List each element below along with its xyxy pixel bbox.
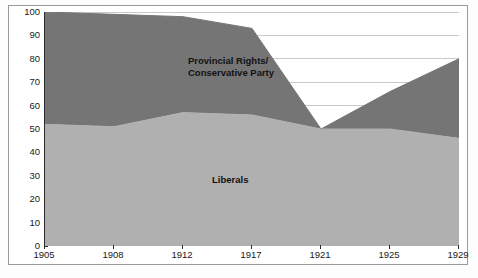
series-label-liberals: Liberals xyxy=(212,174,248,186)
area-chart-svg xyxy=(45,12,459,246)
x-axis-tick-mark xyxy=(458,245,459,249)
x-axis-tick-mark xyxy=(44,245,45,249)
y-axis-tick-labels: 0102030405060708090100 xyxy=(8,12,40,246)
x-axis-tick-label: 1908 xyxy=(102,249,123,260)
y-axis-tick-label: 40 xyxy=(10,148,40,158)
figure-caption xyxy=(10,268,340,278)
x-axis-tick-mark xyxy=(251,245,252,249)
plot-area xyxy=(44,12,458,246)
x-axis-tick-mark xyxy=(389,245,390,249)
figure-container: 0102030405060708090100 19051908191219171… xyxy=(0,0,478,278)
x-axis-tick-label: 1917 xyxy=(240,249,261,260)
series-label-conservative-line1: Provincial Rights/ xyxy=(188,55,268,66)
y-axis-tick-label: 10 xyxy=(10,218,40,228)
x-axis-tick-label: 1925 xyxy=(378,249,399,260)
x-axis-tick-label: 1929 xyxy=(447,249,468,260)
y-axis-tick-label: 80 xyxy=(10,54,40,64)
x-axis-tick-labels: 1905190819121917192119251929 xyxy=(44,249,462,265)
x-axis-tick-label: 1905 xyxy=(33,249,54,260)
x-axis-tick-label: 1912 xyxy=(171,249,192,260)
y-axis-tick-label: 100 xyxy=(10,7,40,17)
series-label-conservative: Provincial Rights/Conservative Party xyxy=(188,55,274,78)
x-axis-tick-mark xyxy=(113,245,114,249)
series-label-conservative-line2: Conservative Party xyxy=(188,67,274,78)
y-axis-tick-label: 90 xyxy=(10,31,40,41)
x-axis-tick-label: 1921 xyxy=(309,249,330,260)
y-axis-tick-label: 50 xyxy=(10,124,40,134)
y-axis-tick-label: 30 xyxy=(10,171,40,181)
x-axis-tick-mark xyxy=(320,245,321,249)
x-axis-tick-mark xyxy=(182,245,183,249)
y-axis-tick-label: 20 xyxy=(10,194,40,204)
y-axis-tick-label: 70 xyxy=(10,77,40,87)
area-liberals xyxy=(45,113,459,246)
y-axis-tick-label: 60 xyxy=(10,101,40,111)
